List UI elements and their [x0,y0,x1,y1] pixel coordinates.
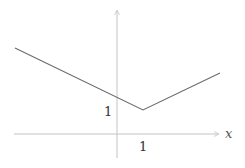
x-tick-label: 1 [139,139,147,154]
x-axis-label: x [225,126,233,141]
chart: x 1 1 [0,0,245,168]
y-tick-label: 1 [104,104,112,119]
